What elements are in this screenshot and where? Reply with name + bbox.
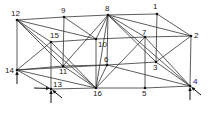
truss-nodes xyxy=(16,13,193,91)
node-4 xyxy=(189,85,192,88)
node-6 xyxy=(106,64,109,67)
truss-member-2-3 xyxy=(156,36,191,62)
truss-member-9-8 xyxy=(64,15,108,17)
node-label-15: 15 xyxy=(50,32,59,40)
truss-member-15-14 xyxy=(17,42,51,70)
node-label-3: 3 xyxy=(153,64,157,72)
truss-member-1-2 xyxy=(157,14,191,36)
node-9 xyxy=(63,16,66,19)
node-label-4: 4 xyxy=(193,78,197,86)
truss-member-13-14 xyxy=(17,70,51,89)
node-13 xyxy=(50,88,53,91)
reaction-arrow-icon-14-up xyxy=(15,72,19,76)
node-label-2: 2 xyxy=(194,32,198,40)
node-label-5: 5 xyxy=(142,90,146,98)
truss-member-8-1 xyxy=(108,14,157,15)
truss-member-2-4 xyxy=(190,36,191,86)
truss-member-7-4 xyxy=(145,37,190,86)
node-2 xyxy=(190,35,193,38)
truss-member-8-7 xyxy=(108,15,145,37)
node-10 xyxy=(95,38,98,41)
truss-member-10-7 xyxy=(96,37,145,39)
truss-members xyxy=(17,14,191,89)
node-12 xyxy=(16,19,19,22)
truss-member-6-3 xyxy=(107,62,156,65)
node-label-9: 9 xyxy=(61,7,65,15)
truss-member-2-7 xyxy=(145,36,191,37)
node-label-10: 10 xyxy=(98,41,107,49)
truss-member-12-11 xyxy=(17,20,63,66)
node-label-11: 11 xyxy=(59,68,67,76)
truss-member-11-16 xyxy=(63,66,96,88)
node-15 xyxy=(50,41,53,44)
node-8 xyxy=(107,14,110,17)
node-label-14: 14 xyxy=(5,67,14,75)
node-label-6: 6 xyxy=(104,56,108,64)
node-label-16: 16 xyxy=(93,90,102,98)
node-14 xyxy=(16,69,19,72)
node-label-12: 12 xyxy=(11,10,20,18)
truss-member-12-9 xyxy=(17,17,64,20)
truss-member-12-15 xyxy=(17,20,51,42)
truss-member-4-5 xyxy=(145,86,190,88)
truss-member-1-3 xyxy=(156,14,157,62)
node-label-7: 7 xyxy=(142,29,146,37)
truss-member-3-4 xyxy=(156,62,190,86)
node-label-8: 8 xyxy=(105,5,109,13)
node-label-1: 1 xyxy=(153,3,157,11)
node-label-13: 13 xyxy=(53,81,62,89)
reaction-arrow-icon-13-up xyxy=(49,91,53,95)
node-1 xyxy=(156,13,159,16)
reaction-arrow-icon-4-up xyxy=(188,88,192,92)
truss-member-9-10 xyxy=(64,17,96,39)
